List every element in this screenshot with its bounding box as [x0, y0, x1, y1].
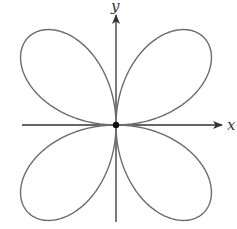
x-axis-label: x — [227, 116, 236, 134]
y-axis-label: y — [110, 0, 120, 15]
rose-curve-figure: x y — [0, 0, 237, 229]
origin-dot — [113, 122, 119, 128]
